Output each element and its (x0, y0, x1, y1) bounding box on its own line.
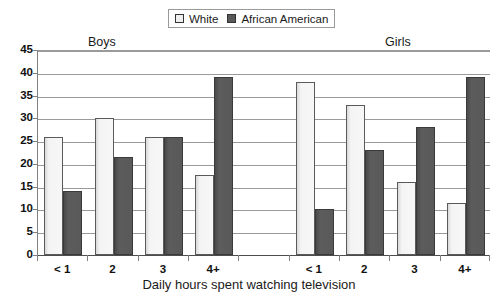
x-tick-mark-0 (37, 255, 38, 261)
x-tick-mark-2 (138, 255, 139, 261)
legend-entry-african-american: African American (227, 13, 328, 25)
x-tick-label-6: 3 (411, 263, 417, 275)
bar-white-0 (44, 137, 63, 255)
dark-swatch-icon (227, 14, 236, 23)
x-tick-label-4: < 1 (306, 263, 322, 275)
bar-white-7 (447, 203, 466, 255)
group-label-boys: Boys (88, 36, 116, 49)
plot-area (37, 50, 490, 255)
x-tick-mark-9 (489, 255, 490, 261)
x-axis-title: Daily hours spent watching television (0, 277, 498, 292)
x-tick-label-3: 4+ (207, 263, 220, 275)
white-swatch-icon (175, 14, 184, 23)
bar-african-american-7 (466, 77, 485, 255)
x-tick-mark-7 (389, 255, 390, 261)
bar-white-3 (195, 175, 214, 255)
x-tick-label-7: 4+ (458, 263, 471, 275)
bar-white-1 (95, 118, 114, 255)
bar-african-american-3 (214, 77, 233, 255)
legend-label-white: White (189, 13, 218, 25)
x-tick-label-5: 2 (361, 263, 367, 275)
x-tick-mark-1 (87, 255, 88, 261)
bar-african-american-0 (63, 191, 82, 255)
y-axis-ticks (0, 50, 42, 255)
x-tick-label-1: 2 (109, 263, 115, 275)
x-tick-mark-3 (188, 255, 189, 261)
bar-series-container (38, 51, 490, 255)
legend-entry-white: White (175, 13, 218, 25)
bar-african-american-6 (416, 127, 435, 255)
group-label-girls: Girls (385, 36, 411, 49)
x-tick-label-0: < 1 (54, 263, 70, 275)
x-tick-mark-4 (238, 255, 239, 261)
bar-african-american-1 (114, 157, 133, 255)
bar-white-2 (145, 137, 164, 255)
bar-african-american-2 (164, 137, 183, 255)
chart-legend: White African American (168, 9, 335, 28)
x-tick-mark-6 (339, 255, 340, 261)
bar-chart: White African American Boys Girls 454035… (0, 0, 498, 301)
x-tick-label-2: 3 (160, 263, 166, 275)
bar-african-american-4 (315, 209, 334, 255)
x-tick-mark-8 (440, 255, 441, 261)
bar-white-5 (346, 105, 365, 255)
bar-african-american-5 (365, 150, 384, 255)
legend-label-african-american: African American (241, 13, 328, 25)
bar-white-6 (397, 182, 416, 255)
x-tick-mark-5 (289, 255, 290, 261)
bar-white-4 (296, 82, 315, 255)
